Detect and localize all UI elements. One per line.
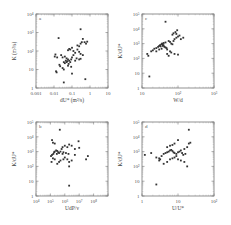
x-axis-label: dU* (m²/s) [60, 97, 84, 104]
data-point [77, 45, 79, 47]
data-point [77, 49, 79, 51]
x-tick-label: 1 [89, 91, 92, 96]
y-tick-label: 1 [137, 86, 140, 91]
data-point [158, 49, 160, 51]
data-point [68, 144, 70, 146]
data-point [63, 61, 65, 63]
data-point [166, 49, 168, 51]
x-tick-label: 10⁷ [76, 199, 83, 204]
x-tick-label: 0.001 [30, 91, 42, 96]
data-point [184, 153, 186, 155]
data-point [68, 63, 70, 65]
data-point [85, 43, 87, 45]
y-tick-label: 10 [29, 67, 35, 72]
data-point [172, 157, 174, 159]
x-tick-label: 10² [211, 199, 218, 204]
x-axis-label: UdP/ν [65, 205, 79, 211]
data-point [80, 53, 82, 55]
y-axis-label: K (m²/s) [11, 42, 18, 61]
data-point [169, 41, 171, 43]
data-point [80, 58, 82, 60]
data-point [78, 140, 80, 142]
data-point [67, 65, 69, 67]
y-tick-label: 10² [27, 49, 34, 54]
data-point [56, 153, 58, 155]
data-point [71, 145, 73, 147]
data-point [59, 129, 61, 131]
data-point [69, 49, 71, 51]
plot-frame [36, 122, 108, 196]
data-point [173, 32, 175, 34]
data-point [62, 57, 64, 59]
data-point [78, 147, 80, 149]
data-point [180, 150, 182, 152]
data-point [62, 153, 64, 155]
y-tick-label: 10⁴ [27, 135, 34, 140]
scatter-panel-d: 11010²11010²10³10⁴10⁵dU/U*K/dU* [117, 120, 218, 211]
x-tick-label: 10⁸ [90, 199, 97, 204]
data-point [63, 151, 65, 153]
data-point [76, 57, 78, 59]
data-point [155, 47, 157, 49]
data-point [70, 66, 72, 68]
data-point [177, 139, 179, 141]
plot-frame [36, 14, 108, 88]
y-tick-label: 10³ [133, 149, 140, 154]
data-point [73, 50, 75, 52]
x-tick-label: 0.1 [69, 91, 76, 96]
x-tick-label: 10⁶ [61, 199, 68, 204]
data-point [144, 154, 146, 156]
data-point [71, 160, 73, 162]
data-point [82, 38, 84, 40]
data-point [163, 153, 165, 155]
data-point [175, 33, 177, 35]
data-point [65, 152, 67, 154]
data-point [54, 143, 56, 145]
x-axis-label: W/d [173, 97, 183, 103]
data-point [160, 45, 162, 47]
figure-canvas: 0.0010.010.111011010²10³10⁴adU* (m²/s)K … [0, 0, 231, 225]
data-point [152, 49, 154, 51]
y-axis-label: K/dU* [117, 43, 123, 58]
data-point [146, 53, 148, 55]
data-point [166, 146, 168, 148]
data-point [74, 148, 76, 150]
data-point [64, 157, 66, 159]
data-point [166, 161, 168, 163]
data-point [165, 152, 167, 154]
data-point [166, 53, 168, 55]
data-point [51, 161, 53, 163]
data-point [73, 54, 75, 56]
data-point [161, 155, 163, 157]
y-tick-label: 10⁴ [133, 27, 140, 32]
data-point [165, 21, 167, 23]
x-axis-label: U/U* [172, 205, 184, 211]
y-tick-label: 1 [31, 86, 34, 91]
data-point [54, 158, 56, 160]
x-tick-label: 1 [141, 199, 144, 204]
data-point [177, 158, 179, 160]
data-point [179, 35, 181, 37]
data-point [62, 146, 64, 148]
y-tick-label: 10⁵ [133, 120, 140, 125]
y-axis-label: K/dU* [11, 151, 17, 166]
data-point [148, 76, 150, 78]
data-point [173, 40, 175, 42]
y-tick-label: 10² [27, 164, 34, 169]
data-point [155, 184, 157, 186]
y-tick-label: 10³ [27, 30, 34, 35]
data-point [150, 50, 152, 52]
data-point [54, 56, 56, 58]
data-point [74, 52, 76, 54]
data-point [174, 53, 176, 55]
data-point [56, 57, 58, 59]
x-tick-label: 10² [175, 91, 182, 96]
data-point [163, 163, 165, 165]
y-axis-label: K/dU* [117, 151, 123, 166]
data-point [175, 31, 177, 33]
data-point [68, 166, 70, 168]
y-tick-label: 10⁴ [133, 135, 140, 140]
data-point [180, 38, 182, 40]
data-point [150, 152, 152, 154]
data-point [60, 54, 62, 56]
